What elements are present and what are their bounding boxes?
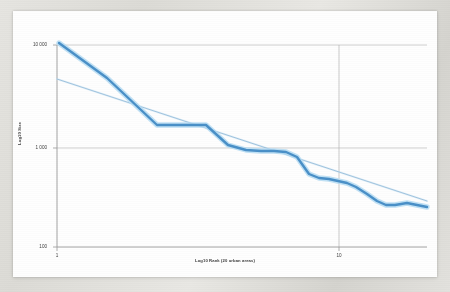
chart-plot-area: 10 000 1 000 100 1 10 Log10 Rank (20 urb… — [13, 11, 437, 277]
y-tick-label-1000: 1 000 — [17, 145, 47, 150]
scanned-page-background: 10 000 1 000 100 1 10 Log10 Rank (20 urb… — [0, 0, 450, 292]
y-tick-label-10000: 10 000 — [17, 42, 47, 47]
chart-panel: 10 000 1 000 100 1 10 Log10 Rank (20 urb… — [13, 11, 437, 277]
y-tick-label-100: 100 — [17, 244, 47, 249]
y-axis-title: Log10 Size — [17, 110, 22, 158]
trend-line — [57, 79, 427, 201]
chart-svg — [13, 11, 437, 277]
x-axis-title: Log10 Rank (20 urban areas) — [13, 258, 437, 263]
